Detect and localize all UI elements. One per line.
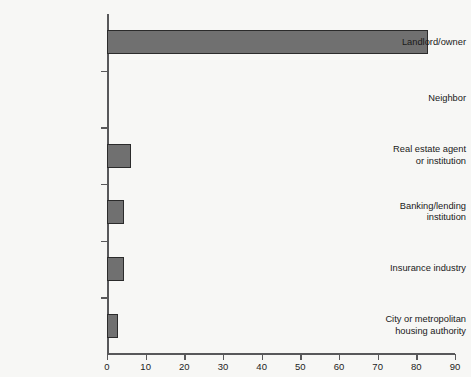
x-axis-tick [378, 354, 379, 360]
x-axis-tick-label: 20 [169, 361, 199, 372]
x-axis-tick-label: 10 [131, 361, 161, 372]
x-axis-line [107, 353, 455, 355]
x-axis-tick [416, 354, 417, 360]
x-axis-tick-label: 0 [92, 361, 122, 372]
y-axis-line [107, 14, 109, 354]
x-axis-tick-label: 70 [363, 361, 393, 372]
y-axis-tick [101, 127, 107, 128]
y-axis-tick [101, 241, 107, 242]
category-label: Banking/lendinginstitution [372, 201, 471, 223]
x-axis-tick [300, 354, 301, 360]
bar [107, 257, 124, 281]
x-axis-tick [455, 354, 456, 360]
x-axis-tick-label: 50 [285, 361, 315, 372]
category-label: Neighbor [372, 93, 471, 104]
plot-area [107, 14, 455, 354]
category-label: Landlord/owner [372, 37, 471, 48]
x-axis-tick [107, 354, 108, 360]
category-label: Real estate agentor institution [372, 144, 471, 166]
category-label: Insurance industry [372, 263, 471, 274]
x-axis-tick [184, 354, 185, 360]
x-axis-tick-label: 80 [401, 361, 431, 372]
bar [107, 200, 124, 224]
x-axis-tick [339, 354, 340, 360]
category-label: City or metropolitanhousing authority [372, 314, 471, 336]
x-axis-tick [262, 354, 263, 360]
y-axis-tick [101, 184, 107, 185]
y-axis-tick [101, 71, 107, 72]
bar [107, 314, 118, 338]
y-axis-tick [101, 297, 107, 298]
horizontal-bar-chart: Landlord/ownerNeighborReal estate agento… [0, 0, 471, 377]
x-axis-tick-label: 90 [440, 361, 470, 372]
x-axis-tick-label: 40 [247, 361, 277, 372]
x-axis-tick [146, 354, 147, 360]
x-axis-tick-label: 30 [208, 361, 238, 372]
bar [107, 144, 131, 168]
x-axis-tick-label: 60 [324, 361, 354, 372]
x-axis-tick [223, 354, 224, 360]
